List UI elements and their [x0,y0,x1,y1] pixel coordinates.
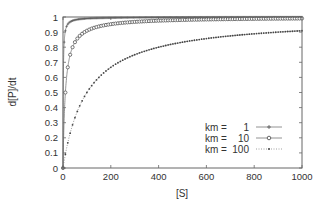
y-tick-label: 0 [53,163,58,174]
y-tick-label: 1 [53,12,58,23]
legend-label-km1-prefix: km = [205,122,227,133]
y-tick-label: 0.5 [45,87,58,98]
y-tick-label: 0.4 [45,102,58,113]
legend-label-km10-prefix: km = [205,133,227,144]
markers-km100 [62,30,303,169]
legend-marker-plus-icon [267,125,271,129]
legend-label-km100-value: 100 [232,144,249,155]
plot-curves [61,16,303,170]
y-tick-label: 0.3 [45,117,58,128]
plot-frame [63,17,302,168]
x-tick-label: 200 [103,171,119,182]
legend-marker-circle-icon [267,136,271,140]
y-tick-label: 0.7 [45,57,58,68]
x-tick-label: 600 [198,171,214,182]
chart-canvas: 0200400600800100000.10.20.30.40.50.60.70… [0,0,330,210]
y-axis-label: d[P]/dt [7,77,18,106]
legend: km = 1 km = 10 km = 100 [205,122,282,155]
x-tick-label: 1000 [291,171,312,182]
legend-label-km1-value: 1 [243,122,249,133]
y-tick-label: 0.9 [45,27,58,38]
y-tick-label: 0.2 [45,132,58,143]
legend-marker-dot-icon [268,148,270,150]
x-tick-label: 400 [151,171,167,182]
x-axis-label: [S] [176,188,188,199]
y-tick-label: 0.6 [45,72,58,83]
curve-km1 [63,17,302,168]
curve-km10 [63,19,302,169]
y-tick-label: 0.8 [45,42,58,53]
legend-label-km10-value: 10 [238,133,250,144]
x-tick-label: 800 [246,171,262,182]
y-tick-label: 0.1 [45,147,58,158]
legend-label-km100-prefix: km = [205,144,227,155]
markers-km1 [62,16,304,169]
markers-km10 [61,17,303,170]
curve-km100 [63,31,302,168]
x-tick-label: 0 [60,171,65,182]
